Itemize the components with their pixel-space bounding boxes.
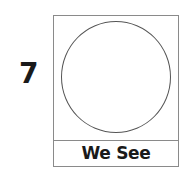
caption-label: We See	[54, 143, 178, 163]
caption-divider	[54, 140, 178, 141]
item-number: 7	[19, 60, 38, 88]
circle-shape	[61, 21, 171, 133]
picture-card: We See	[53, 15, 179, 167]
